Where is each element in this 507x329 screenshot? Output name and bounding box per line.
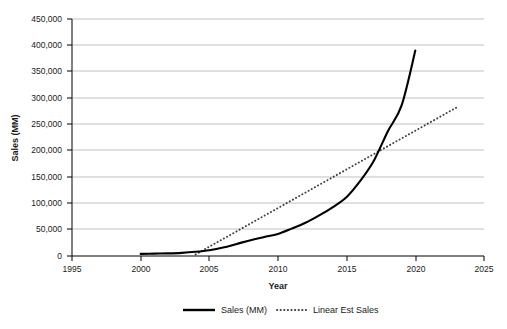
y-tick-label-100000: 100,000: [31, 198, 62, 208]
x-tick-label-1995: 1995: [63, 264, 82, 274]
legend-label-sales: Sales (MM): [221, 305, 267, 315]
gridlines: [72, 19, 484, 229]
x-tick-label-2025: 2025: [475, 264, 494, 274]
y-tick-labels: 450,000 400,000 350,000 300,000 250,000 …: [31, 14, 62, 261]
y-tick-label-450000: 450,000: [31, 14, 62, 24]
y-tick-label-400000: 400,000: [31, 40, 62, 50]
y-tick-label-250000: 250,000: [31, 119, 62, 129]
chart-svg: 450,000 400,000 350,000 300,000 250,000 …: [0, 0, 507, 329]
chart-container: 450,000 400,000 350,000 300,000 250,000 …: [0, 0, 507, 329]
x-axis: [72, 256, 484, 261]
y-tick-label-50000: 50,000: [36, 224, 62, 234]
x-tick-labels: 1995 2000 2005 2010 2015 2020 2025: [63, 264, 494, 274]
series-line-linear-est-sales: [196, 107, 457, 254]
y-axis: [67, 19, 72, 256]
series-line-sales: [141, 51, 416, 254]
y-tick-label-0: 0: [57, 251, 62, 261]
y-axis-title: Sales (MM): [10, 114, 20, 161]
y-tick-label-150000: 150,000: [31, 172, 62, 182]
legend: Sales (MM) Linear Est Sales: [183, 305, 379, 315]
x-tick-label-2000: 2000: [132, 264, 151, 274]
x-axis-title: Year: [268, 281, 288, 291]
y-tick-label-200000: 200,000: [31, 145, 62, 155]
x-tick-label-2015: 2015: [338, 264, 357, 274]
x-tick-label-2005: 2005: [200, 264, 219, 274]
x-tick-label-2010: 2010: [269, 264, 288, 274]
legend-label-linear-est-sales: Linear Est Sales: [313, 305, 379, 315]
y-tick-label-300000: 300,000: [31, 93, 62, 103]
y-tick-label-350000: 350,000: [31, 66, 62, 76]
x-tick-label-2020: 2020: [407, 264, 426, 274]
